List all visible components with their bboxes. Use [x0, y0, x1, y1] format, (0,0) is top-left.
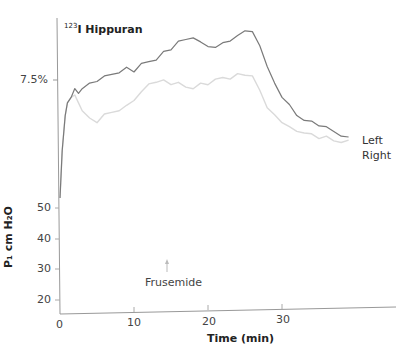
legend-right: Right	[362, 149, 391, 162]
title-text: I Hippuran	[77, 23, 142, 36]
series-right-line	[60, 74, 349, 198]
y-axis-label: P₁ cm H₂O	[2, 206, 15, 268]
y-tick-label-50: 50	[37, 201, 51, 214]
x-tick-label-30: 30	[276, 313, 290, 326]
title-superscript: 123	[64, 22, 77, 30]
x-tick-label-0: 0	[56, 318, 63, 331]
arrow-head-icon	[165, 259, 169, 264]
y-axis	[57, 18, 60, 314]
y-tick-label-20: 20	[37, 293, 51, 306]
x-axis	[60, 307, 396, 314]
x-axis-label: Time (min)	[207, 332, 274, 345]
legend-left: Left	[362, 134, 383, 147]
y-tick-label-upper: 7.5%	[20, 73, 48, 86]
x-tick-label-10: 10	[127, 316, 141, 329]
y-tick-label-30: 30	[37, 262, 51, 275]
annotation-frusemide: Frusemide	[145, 276, 202, 289]
chart-title: 123I Hippuran	[64, 22, 143, 36]
y-tick-label-40: 40	[37, 232, 51, 245]
renogram-chart	[0, 0, 411, 361]
x-tick-label-20: 20	[202, 315, 216, 328]
